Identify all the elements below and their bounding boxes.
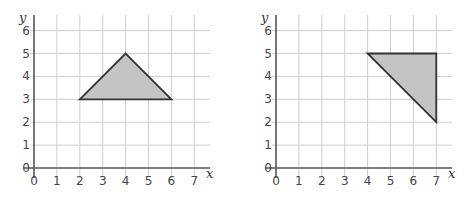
y-tick-label: 5 [22, 47, 30, 61]
x-tick-label: 5 [145, 174, 153, 188]
x-axis-label: x [448, 166, 456, 181]
x-tick-label: 3 [99, 174, 107, 188]
y-tick-label: 4 [22, 69, 30, 83]
y-tick-label: 4 [264, 69, 272, 83]
x-tick-label: 7 [432, 174, 440, 188]
y-tick-label: 6 [264, 24, 272, 38]
y-tick-label: 1 [22, 138, 30, 152]
y-tick-label: 2 [22, 115, 30, 129]
y-tick-label: 5 [264, 47, 272, 61]
x-tick-label: 1 [295, 174, 303, 188]
x-tick-label: 7 [190, 174, 198, 188]
left-coordinate-grid: 012345670123456xy [0, 0, 233, 202]
y-tick-label: 1 [264, 138, 272, 152]
x-tick-label: 3 [341, 174, 349, 188]
y-tick-label: 6 [22, 24, 30, 38]
x-tick-label: 0 [30, 174, 38, 188]
x-tick-label: 5 [387, 174, 395, 188]
right-coordinate-grid: 012345670123456xy [233, 0, 466, 202]
x-tick-label: 6 [410, 174, 418, 188]
y-axis-label: y [18, 10, 27, 25]
y-axis-label: y [260, 10, 269, 25]
x-tick-label: 4 [364, 174, 372, 188]
x-tick-label: 0 [272, 174, 280, 188]
x-tick-label: 1 [53, 174, 61, 188]
y-tick-label: 3 [264, 92, 272, 106]
y-tick-label: 0 [22, 161, 30, 175]
x-axis-label: x [206, 166, 214, 181]
shaded-triangle [368, 54, 437, 123]
x-tick-label: 2 [76, 174, 84, 188]
x-tick-label: 6 [168, 174, 176, 188]
y-tick-label: 3 [22, 92, 30, 106]
y-tick-label: 0 [264, 161, 272, 175]
x-tick-label: 4 [122, 174, 130, 188]
x-tick-label: 2 [318, 174, 326, 188]
y-tick-label: 2 [264, 115, 272, 129]
